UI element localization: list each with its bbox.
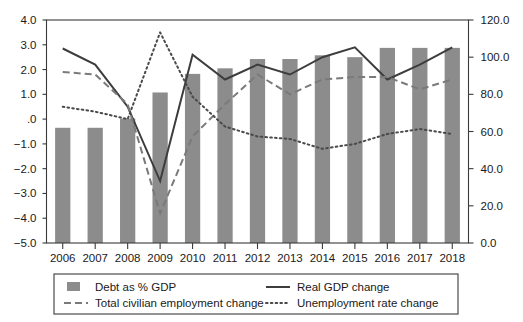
x-axis-tick-label: 2012: [245, 252, 271, 264]
legend-item-label: Total civilian employment change: [95, 297, 264, 309]
right-axis-tick-marks: [469, 20, 474, 243]
bar: [412, 48, 427, 243]
right-axis-tick-label: 0.0: [481, 237, 497, 249]
left-axis-tick-label: .0: [27, 113, 37, 125]
x-axis-tick-label: 2018: [439, 252, 465, 264]
legend-swatch-icon: [67, 282, 80, 291]
left-axis-tick-labels: 4.03.02.01.0.0−1.0−2.0−3.0−4.0−5.0: [14, 14, 37, 249]
right-axis-tick-label: 120.0: [481, 14, 510, 26]
x-axis-tick-label: 2015: [342, 252, 368, 264]
x-axis-tick-label: 2014: [310, 252, 336, 264]
left-axis-tick-label: 3.0: [21, 39, 37, 51]
x-axis-tick-label: 2010: [180, 252, 206, 264]
left-axis-tick-label: −1.0: [14, 138, 37, 150]
chart-container: 4.03.02.01.0.0−1.0−2.0−3.0−4.0−5.0 120.0…: [0, 0, 523, 322]
right-axis-tick-label: 40.0: [481, 163, 503, 175]
bar: [217, 68, 232, 243]
x-axis-tick-label: 2009: [147, 252, 173, 264]
left-axis-tick-label: −3.0: [14, 187, 37, 199]
legend-item-label: Unemployment rate change: [297, 297, 438, 309]
left-axis-tick-label: 2.0: [21, 64, 37, 76]
bar: [250, 59, 265, 243]
x-axis-tick-labels: 2006200720082009201020112012201320142015…: [50, 252, 465, 264]
left-axis-tick-marks: [43, 20, 47, 243]
bar: [185, 74, 200, 243]
bar: [282, 59, 297, 243]
left-axis-tick-label: 1.0: [21, 88, 37, 100]
right-axis-tick-labels: 120.0100.080.060.040.020.00.0: [481, 14, 510, 249]
bar: [347, 57, 362, 243]
x-axis-tick-label: 2007: [82, 252, 108, 264]
left-axis-tick-label: −5.0: [14, 237, 37, 249]
bar-series-debt-as-pct-gdp: [55, 48, 460, 243]
legend-item-label: Real GDP change: [297, 281, 389, 293]
left-axis-tick-label: 4.0: [21, 14, 37, 26]
left-axis-tick-label: −4.0: [14, 212, 37, 224]
right-axis-tick-label: 80.0: [481, 88, 503, 100]
x-axis-tick-label: 2016: [375, 252, 401, 264]
x-axis-tick-marks: [63, 243, 453, 249]
left-axis-tick-label: −2.0: [14, 163, 37, 175]
x-axis-tick-label: 2013: [277, 252, 303, 264]
bar: [120, 118, 135, 243]
legend-item-label: Debt as % GDP: [95, 281, 176, 293]
bar: [55, 128, 70, 243]
x-axis-tick-label: 2008: [115, 252, 141, 264]
chart-figure: 4.03.02.01.0.0−1.0−2.0−3.0−4.0−5.0 120.0…: [0, 0, 523, 322]
x-axis-tick-label: 2017: [407, 252, 433, 264]
chart-legend: Debt as % GDPReal GDP changeTotal civili…: [54, 274, 458, 314]
x-axis-tick-label: 2006: [50, 252, 76, 264]
right-axis-tick-label: 100.0: [481, 51, 510, 63]
right-axis-tick-label: 60.0: [481, 126, 503, 138]
bar: [88, 128, 103, 243]
x-axis-tick-label: 2011: [213, 252, 238, 264]
right-axis-tick-label: 20.0: [481, 200, 503, 212]
bar: [445, 48, 460, 243]
